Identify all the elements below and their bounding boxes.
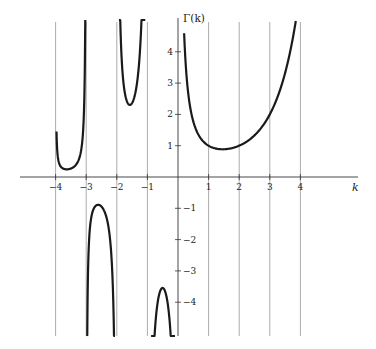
gamma-function-plot: −4−3−2−11234 4321−1−2−3−4 k Γ(k) xyxy=(0,0,376,349)
y-tick-label: 1 xyxy=(167,141,173,151)
y-tick-label: −2 xyxy=(183,235,196,245)
x-tick-label: 1 xyxy=(206,182,212,192)
x-axis-label: k xyxy=(352,181,359,194)
y-tick-label: −3 xyxy=(183,266,197,276)
gamma-branch-curve xyxy=(87,205,115,336)
y-tick-label: 3 xyxy=(167,78,173,88)
y-tick-label: −4 xyxy=(183,297,197,307)
x-tick-label: 4 xyxy=(298,182,304,192)
x-tick-label: −1 xyxy=(141,182,154,192)
x-tick-label: −3 xyxy=(80,182,94,192)
x-tick-label: 2 xyxy=(236,182,242,192)
y-tick-label: −1 xyxy=(183,203,196,213)
gamma-curves xyxy=(57,20,296,336)
gamma-branch-curve xyxy=(151,288,175,336)
gamma-branch-curve xyxy=(57,20,86,169)
y-tick-label: 2 xyxy=(167,109,173,119)
x-tick-label: −2 xyxy=(110,182,123,192)
gamma-branch-curve xyxy=(119,20,145,105)
y-axis-label: Γ(k) xyxy=(183,12,205,24)
axes xyxy=(20,18,358,336)
x-tick-label: −4 xyxy=(49,182,63,192)
y-tick-label: 4 xyxy=(167,47,173,57)
gamma-branch-curve xyxy=(184,21,296,149)
x-tick-label: 3 xyxy=(267,182,273,192)
